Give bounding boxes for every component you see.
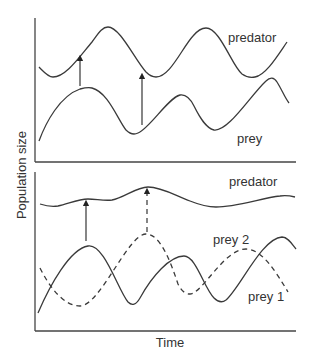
top-panel: predator prey (35, 18, 296, 162)
bottom-predator-label: predator (229, 174, 278, 189)
bottom-predator-curve (40, 187, 295, 207)
top-prey-label: prey (237, 131, 263, 146)
bottom-prey2-label: prey 2 (213, 232, 249, 247)
top-predator-label: predator (228, 30, 277, 45)
predator-prey-figure: predator prey Population size predator p… (0, 0, 311, 358)
y-axis-label: Population size (14, 131, 29, 219)
x-axis-label: Time (156, 335, 184, 350)
bottom-panel: predator prey 2 prey 1 (35, 172, 296, 331)
bottom-prey1-label: prey 1 (248, 289, 284, 304)
